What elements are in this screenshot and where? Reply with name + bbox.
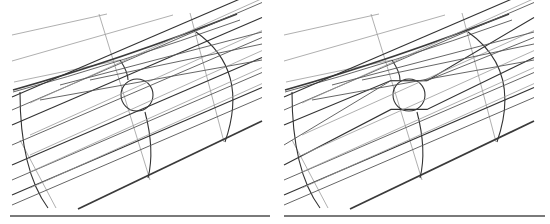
streamline xyxy=(284,38,534,146)
streamline-light xyxy=(30,68,262,172)
circular-obstacle xyxy=(393,79,425,111)
streamline xyxy=(312,60,534,100)
guide-line xyxy=(284,14,379,35)
streamline-light xyxy=(302,68,534,172)
guide-line-vertical xyxy=(190,13,224,142)
section-curve-left xyxy=(20,92,48,208)
guide-line-vertical xyxy=(462,13,496,142)
streamline xyxy=(12,98,262,206)
streamline xyxy=(12,38,262,146)
streamline xyxy=(12,58,262,166)
figure xyxy=(0,0,550,224)
streamline xyxy=(60,32,262,85)
guide-line xyxy=(286,60,392,82)
panel-left xyxy=(12,0,262,209)
section-curve-left xyxy=(292,92,320,208)
guide-line-vertical xyxy=(371,14,422,180)
guide-line xyxy=(12,14,107,35)
guide-line xyxy=(14,60,120,82)
streamline xyxy=(284,98,534,206)
streamline xyxy=(12,18,262,126)
panel-right xyxy=(284,0,534,209)
streamline xyxy=(40,60,262,100)
